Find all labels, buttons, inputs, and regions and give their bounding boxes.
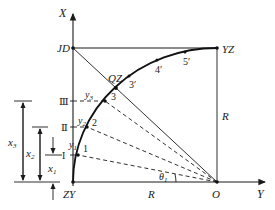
label-point-3prime: 3′ (129, 79, 136, 90)
point-YZ (215, 46, 219, 50)
point-O (215, 180, 219, 184)
point-QZ (114, 86, 118, 90)
point-3 (103, 99, 106, 102)
label-O: O (212, 188, 220, 200)
label-point-4prime: 4′ (155, 64, 162, 75)
label-x1: x1 (47, 162, 56, 176)
label-R-horizontal: R (147, 188, 155, 200)
radius-dashed-3 (105, 101, 217, 182)
label-point-1: 1 (83, 143, 88, 154)
label-ZY: ZY (63, 188, 77, 200)
angle-arc (175, 174, 176, 182)
label-y2: y2 (77, 115, 86, 128)
label-point-5prime: 5′ (183, 56, 190, 67)
point-4prime (156, 59, 159, 62)
point-5prime (184, 51, 187, 54)
label-x2: x2 (25, 147, 35, 161)
y-axis-label: Y (257, 187, 265, 201)
label-y1: y1 (68, 139, 77, 152)
mark-III: Ⅲ (59, 96, 69, 107)
label-R-vertical: R (221, 110, 229, 122)
point-1 (76, 153, 79, 156)
label-YZ: YZ (222, 43, 235, 55)
x-axis-label: X (58, 6, 67, 20)
label-JD: JD (57, 42, 70, 54)
bisector-line (73, 48, 217, 182)
label-y3: y3 (84, 89, 93, 102)
curve-layout-diagram: X Y JD YZ ZY O QZ 1 2 3 3′ 4′ 5′ I Ⅱ Ⅲ y… (0, 0, 275, 210)
diagram-canvas: X Y JD YZ ZY O QZ 1 2 3 3′ 4′ 5′ I Ⅱ Ⅲ y… (0, 0, 275, 210)
mark-II: Ⅱ (61, 122, 68, 133)
point-ZY (71, 180, 75, 184)
radius-dashed-1 (78, 155, 217, 182)
mark-I: I (62, 150, 65, 161)
label-QZ: QZ (108, 72, 123, 84)
point-3prime (128, 75, 131, 78)
label-point-3: 3 (111, 91, 116, 102)
label-point-2: 2 (92, 117, 97, 128)
label-x3: x3 (7, 136, 17, 150)
point-JD (71, 46, 75, 50)
